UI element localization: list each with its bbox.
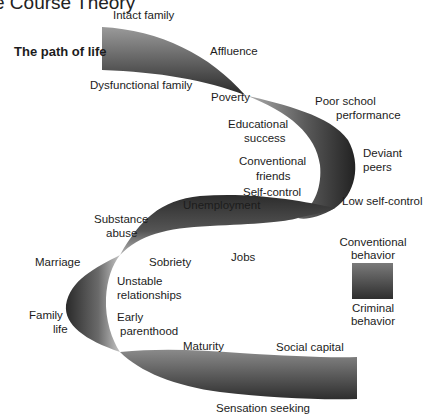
label-educational: Educational	[228, 118, 288, 131]
label-poverty: Poverty	[211, 91, 250, 104]
label-performance: performance	[336, 109, 401, 122]
legend-bottom-line1: Criminal	[339, 302, 407, 315]
legend-bottom-line2: behavior	[339, 315, 407, 328]
label-life: life	[53, 323, 68, 336]
label-dysfunctional-family: Dysfunctional family	[90, 79, 192, 92]
path-of-life-heading: The path of life	[14, 45, 106, 58]
label-friends: friends	[256, 170, 291, 183]
label-deviant: Deviant	[363, 147, 402, 160]
label-early: Early	[117, 311, 143, 324]
label-affluence: Affluence	[210, 45, 258, 58]
label-unstable: Unstable	[117, 275, 162, 288]
label-self-control: Self-control	[243, 186, 301, 199]
label-parenthood: parenthood	[120, 325, 178, 338]
label-intact-family: Intact family	[113, 9, 174, 22]
label-relationships: relationships	[117, 289, 182, 302]
label-family: Family	[29, 309, 63, 322]
label-low-self-control: Low self-control	[342, 195, 423, 208]
legend-top-line2: behavior	[339, 249, 407, 262]
label-peers: peers	[363, 161, 392, 174]
legend-top-line1: Conventional	[339, 236, 407, 249]
label-sensation-seeking: Sensation seeking	[216, 402, 310, 415]
label-marriage: Marriage	[35, 256, 80, 269]
label-conventional-friends: Conventional	[239, 155, 306, 168]
label-substance: Substance	[94, 213, 148, 226]
label-jobs: Jobs	[231, 251, 255, 264]
legend-gradient-swatch	[352, 263, 393, 299]
label-poor-school: Poor school	[315, 95, 376, 108]
label-success: success	[244, 132, 286, 145]
label-sobriety: Sobriety	[149, 256, 191, 269]
label-abuse: abuse	[106, 227, 137, 240]
ribbon-segment-maturity	[120, 350, 357, 399]
ribbon-segment-adulthood	[66, 255, 120, 352]
label-maturity: Maturity	[183, 340, 224, 353]
label-unemployment: Unemployment	[183, 199, 260, 212]
label-social-capital: Social capital	[276, 341, 344, 354]
